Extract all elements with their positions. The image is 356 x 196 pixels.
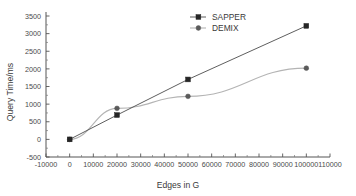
y-tick-label: 1500 bbox=[25, 82, 41, 91]
x-tick-label: 60000 bbox=[202, 160, 222, 169]
data-point-sapper bbox=[115, 113, 120, 118]
y-axis-title: Query Time/ms bbox=[5, 63, 15, 121]
x-tick-label: 100000 bbox=[294, 160, 318, 169]
x-tick-label: 50000 bbox=[178, 160, 198, 169]
data-point-demix bbox=[115, 106, 120, 111]
y-tick-label: 2000 bbox=[25, 65, 41, 74]
y-tick-labels: -5000500100015002000250030003500 bbox=[25, 12, 41, 162]
y-tick-label: 0 bbox=[37, 135, 41, 144]
x-tick-label: 10000 bbox=[83, 160, 103, 169]
x-tick-labels: -100000100002000030000400005000060000700… bbox=[35, 160, 342, 169]
series-line-sapper bbox=[70, 26, 307, 140]
x-tick-label: 110000 bbox=[318, 160, 341, 169]
chart-container: -100000100002000030000400005000060000700… bbox=[0, 0, 356, 196]
data-point-sapper bbox=[186, 77, 191, 82]
chart-legend: SAPPERDEMIX bbox=[190, 12, 246, 33]
legend-label-demix: DEMIX bbox=[212, 23, 239, 33]
x-tick-label: 20000 bbox=[107, 160, 127, 169]
data-series-group bbox=[67, 23, 308, 141]
data-point-demix bbox=[304, 66, 309, 71]
square-marker-icon bbox=[196, 15, 201, 20]
line-chart: -100000100002000030000400005000060000700… bbox=[0, 0, 356, 196]
axis-group bbox=[46, 12, 330, 157]
y-tick-label: -500 bbox=[27, 153, 41, 162]
y-tick-label: 3000 bbox=[25, 29, 41, 38]
x-tick-label: 30000 bbox=[131, 160, 151, 169]
legend-label-sapper: SAPPER bbox=[212, 12, 246, 22]
x-tick-label: 70000 bbox=[225, 160, 245, 169]
y-tick-label: 1000 bbox=[25, 100, 41, 109]
circle-marker-icon bbox=[196, 26, 201, 31]
data-point-sapper bbox=[304, 23, 309, 28]
x-tick-label: 90000 bbox=[273, 160, 293, 169]
y-tick-label: 2500 bbox=[25, 47, 41, 56]
data-point-sapper bbox=[67, 137, 72, 142]
data-point-demix bbox=[186, 94, 191, 99]
x-axis-title: Edges in G bbox=[157, 180, 200, 190]
y-tick-label: 3500 bbox=[25, 12, 41, 21]
y-tick-label: 500 bbox=[29, 117, 41, 126]
x-tick-label: 80000 bbox=[249, 160, 269, 169]
x-tick-label: 40000 bbox=[154, 160, 174, 169]
x-tick-label: 0 bbox=[68, 160, 72, 169]
